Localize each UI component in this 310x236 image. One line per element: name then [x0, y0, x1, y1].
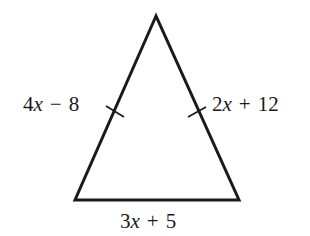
- right-side-label: 2x+12: [212, 92, 279, 116]
- base-label: 3x+5: [120, 209, 176, 233]
- triangle-diagram: 4x−8 2x+12 3x+5: [0, 0, 310, 236]
- left-side-label: 4x−8: [23, 92, 79, 116]
